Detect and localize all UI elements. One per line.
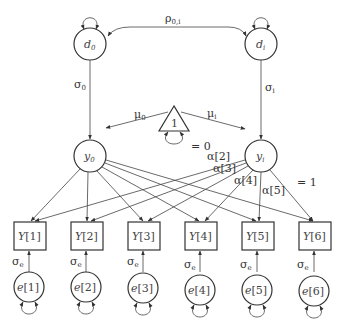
eq1-label: = 1 [297, 176, 317, 189]
latent-di: di [245, 28, 277, 60]
observed-y3: Y[3] [128, 222, 160, 250]
svg-text:Y[3]: Y[3] [132, 230, 155, 243]
constant-triangle: 1 [159, 106, 189, 144]
mu0-label: μ0 [134, 108, 146, 122]
svg-text:e[1]: e[1] [17, 281, 39, 294]
latent-yi: yi [245, 140, 277, 172]
path-diagram: ρ0,i d0 di σ0 σi 1 = 0 μ0 μi y0 yi [0, 0, 343, 331]
observed-y1: Y[1] [14, 222, 46, 250]
svg-text:σe: σe [12, 255, 24, 269]
alpha5-label: α[5] [262, 184, 285, 197]
svg-text:σe: σe [127, 255, 139, 269]
observed-y4: Y[4] [185, 222, 217, 250]
variance-loop-d0 [83, 18, 97, 29]
error-e2: e[2] [71, 272, 101, 314]
svg-text:e[3]: e[3] [131, 282, 153, 295]
variance-loop-di [254, 18, 268, 29]
sigma-e-labels: σe σe σe σe σe σe [12, 255, 309, 272]
svg-text:σe: σe [184, 258, 196, 272]
error-e4: e[4] [185, 275, 215, 317]
svg-text:Y[2]: Y[2] [75, 230, 98, 243]
observed-y5: Y[5] [242, 222, 274, 250]
observed-y2: Y[2] [71, 222, 103, 250]
svg-text:e[5]: e[5] [245, 284, 267, 297]
error-e1: e[1] [14, 272, 44, 314]
svg-text:Y[6]: Y[6] [303, 230, 326, 243]
latent-y0: y0 [74, 140, 106, 172]
rho-label: ρ0,i [165, 12, 181, 26]
alpha3-label: α[3] [213, 162, 236, 175]
svg-text:e[6]: e[6] [302, 285, 324, 298]
error-e3: e[3] [128, 273, 158, 315]
latent-d0: d0 [74, 28, 106, 60]
svg-text:σe: σe [297, 258, 309, 272]
svg-text:σe: σe [240, 258, 252, 272]
svg-text:Y[4]: Y[4] [189, 230, 212, 243]
svg-text:Y[5]: Y[5] [246, 230, 269, 243]
svg-text:Y[1]: Y[1] [18, 230, 41, 243]
observed-y6: Y[6] [299, 222, 331, 250]
svg-text:1: 1 [171, 117, 178, 130]
alpha4-label: α[4] [234, 174, 257, 187]
covariance-arrow [108, 27, 246, 36]
svg-text:σe: σe [70, 255, 82, 269]
sigma0-label: σ0 [74, 78, 86, 92]
mui-label: μi [207, 107, 217, 121]
sigmai-label: σi [265, 81, 276, 95]
error-e6: e[6] [299, 276, 329, 318]
error-e5: e[5] [242, 275, 272, 317]
svg-text:e[4]: e[4] [188, 284, 210, 297]
svg-text:e[2]: e[2] [74, 281, 96, 294]
